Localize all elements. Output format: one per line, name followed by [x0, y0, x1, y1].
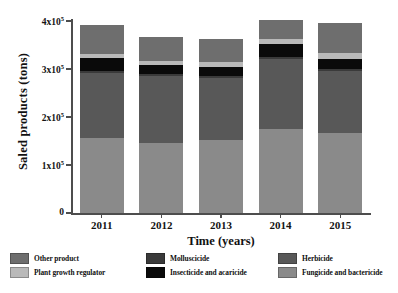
- bar-segment-plant-growth-regulator[interactable]: [259, 39, 303, 43]
- bar-segment-plant-growth-regulator[interactable]: [80, 54, 124, 58]
- legend-item-insecticide-and-acaricide[interactable]: Insecticide and acaricide: [146, 266, 278, 279]
- bar-segment-molluscicide[interactable]: [139, 74, 183, 76]
- bar-segment-other-product[interactable]: [139, 37, 183, 61]
- legend-item-plant-growth-regulator[interactable]: Plant growth regulator: [10, 266, 146, 279]
- legend-swatch: [278, 253, 297, 264]
- legend-item-other-product[interactable]: Other product: [10, 252, 146, 265]
- legend-swatch: [10, 267, 29, 278]
- bar-segment-other-product[interactable]: [259, 20, 303, 39]
- bar-2013[interactable]: [199, 21, 243, 213]
- bar-segment-plant-growth-regulator[interactable]: [199, 62, 243, 67]
- bar-segment-herbicide[interactable]: [80, 73, 124, 138]
- stacked-bar-chart-figure: 01x1052x1053x1054x105 201120122013201420…: [0, 0, 398, 293]
- legend-label: Fungicide and bactericide: [302, 268, 382, 277]
- legend-item-herbicide[interactable]: Herbicide: [278, 252, 398, 265]
- chart-legend: Other productMolluscicideHerbicidePlant …: [10, 252, 390, 282]
- legend-swatch: [146, 267, 165, 278]
- x-tick-mark: [101, 213, 102, 218]
- legend-swatch: [278, 267, 297, 278]
- bar-segment-molluscicide[interactable]: [318, 69, 362, 71]
- x-axis-title: Time (years): [71, 234, 371, 249]
- legend-item-fungicide-and-bactericide[interactable]: Fungicide and bactericide: [278, 266, 398, 279]
- y-tick-label: 0: [24, 207, 64, 217]
- bar-segment-fungicide-and-bactericide[interactable]: [259, 129, 303, 213]
- x-tick-label-2013: 2013: [191, 219, 251, 231]
- bar-segment-fungicide-and-bactericide[interactable]: [139, 143, 183, 213]
- bar-segment-insecticide-and-acaricide[interactable]: [199, 67, 243, 76]
- x-tick-mark: [220, 213, 221, 218]
- legend-swatch: [146, 253, 165, 264]
- legend-label: Herbicide: [302, 254, 333, 263]
- bar-segment-herbicide[interactable]: [199, 78, 243, 140]
- bar-segment-insecticide-and-acaricide[interactable]: [139, 65, 183, 74]
- bar-segment-other-product[interactable]: [318, 23, 362, 53]
- figure-bottom-margin: [0, 288, 398, 293]
- bar-2014[interactable]: [259, 21, 303, 213]
- bar-segment-fungicide-and-bactericide[interactable]: [199, 140, 243, 213]
- bar-segment-molluscicide[interactable]: [199, 76, 243, 78]
- y-tick-label: 4x105: [24, 15, 64, 27]
- y-axis-title: Saled products (tons): [16, 37, 31, 187]
- bar-segment-molluscicide[interactable]: [80, 71, 124, 73]
- bar-segment-insecticide-and-acaricide[interactable]: [259, 44, 303, 58]
- bar-segment-other-product[interactable]: [80, 25, 124, 54]
- legend-label: Plant growth regulator: [34, 268, 105, 277]
- bar-segment-herbicide[interactable]: [259, 59, 303, 128]
- bar-2011[interactable]: [80, 21, 124, 213]
- bar-segment-fungicide-and-bactericide[interactable]: [318, 133, 362, 213]
- x-tick-mark: [340, 213, 341, 218]
- legend-label: Other product: [34, 254, 79, 263]
- legend-label: Insecticide and acaricide: [170, 268, 247, 277]
- legend-item-molluscicide[interactable]: Molluscicide: [146, 252, 278, 265]
- bar-segment-insecticide-and-acaricide[interactable]: [318, 59, 362, 69]
- bar-2015[interactable]: [318, 21, 362, 213]
- x-tick-mark: [161, 213, 162, 218]
- legend-label: Molluscicide: [170, 254, 209, 263]
- bar-segment-plant-growth-regulator[interactable]: [139, 61, 183, 65]
- x-tick-label-2014: 2014: [251, 219, 311, 231]
- legend-swatch: [10, 253, 29, 264]
- bar-2012[interactable]: [139, 21, 183, 213]
- plot-area: [72, 21, 370, 213]
- x-tick-mark: [280, 213, 281, 218]
- bar-segment-other-product[interactable]: [199, 39, 243, 62]
- bar-segment-molluscicide[interactable]: [259, 57, 303, 59]
- bar-segment-insecticide-and-acaricide[interactable]: [80, 58, 124, 71]
- x-tick-label-2015: 2015: [310, 219, 370, 231]
- bar-segment-herbicide[interactable]: [318, 71, 362, 133]
- x-tick-label-2012: 2012: [131, 219, 191, 231]
- bar-segment-herbicide[interactable]: [139, 76, 183, 143]
- bar-segment-fungicide-and-bactericide[interactable]: [80, 138, 124, 213]
- bar-segment-plant-growth-regulator[interactable]: [318, 53, 362, 59]
- x-tick-label-2011: 2011: [72, 219, 132, 231]
